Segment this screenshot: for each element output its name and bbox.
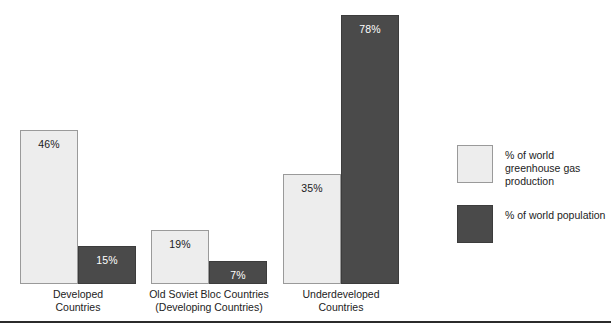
bar-value-label: 7%: [210, 269, 266, 281]
bar-chart: 46% 15% 19% 7% 35% 78% Developed Countri…: [0, 0, 611, 335]
category-label-line2: Countries: [18, 301, 138, 314]
bar-value-label: 15%: [79, 254, 135, 266]
bar-value-label: 19%: [152, 238, 208, 250]
legend-item-label: % of world population: [505, 205, 605, 222]
legend-item-greenhouse: % of world greenhouse gas production: [457, 145, 611, 188]
legend-item-population: % of world population: [457, 205, 605, 243]
bottom-rule: [0, 321, 611, 323]
bar-value-label: 35%: [284, 182, 340, 194]
category-label-developed: Developed Countries: [18, 288, 138, 314]
bar-underdeveloped-population: 78%: [341, 15, 399, 284]
bar-value-label: 78%: [342, 23, 398, 35]
bar-soviet-greenhouse: 19%: [151, 230, 209, 284]
category-label-underdeveloped: Underdeveloped Countries: [281, 288, 401, 314]
bar-soviet-population: 7%: [209, 261, 267, 284]
bar-developed-population: 15%: [78, 246, 136, 284]
category-label-line1: Developed: [18, 288, 138, 301]
legend-swatch-icon: [457, 145, 493, 183]
legend-swatch-icon: [457, 205, 493, 243]
bar-developed-greenhouse: 46%: [20, 130, 78, 284]
bar-value-label: 46%: [21, 138, 77, 150]
category-label-line1: Old Soviet Bloc Countries: [139, 288, 279, 301]
legend-item-label: % of world greenhouse gas production: [505, 145, 611, 188]
category-label-line2: Countries: [281, 301, 401, 314]
category-label-line1: Underdeveloped: [281, 288, 401, 301]
category-label-line2: (Developing Countries): [139, 301, 279, 314]
bar-underdeveloped-greenhouse: 35%: [283, 174, 341, 284]
category-label-old-soviet-bloc: Old Soviet Bloc Countries (Developing Co…: [139, 288, 279, 314]
